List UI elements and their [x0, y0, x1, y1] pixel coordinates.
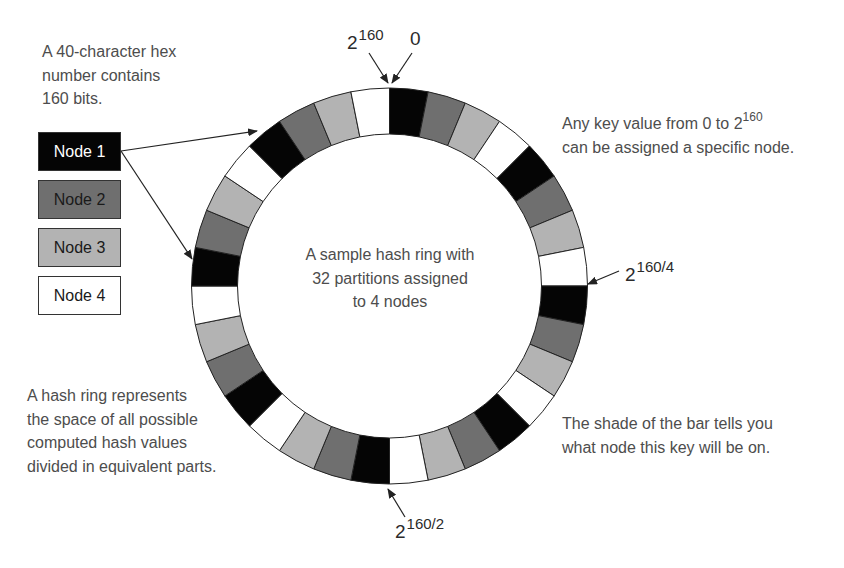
- zero-marker-arrow-icon: [392, 53, 412, 83]
- marker-exponent: 160: [359, 26, 384, 43]
- marker-base: 2: [347, 32, 358, 53]
- marker-base: 2: [625, 264, 636, 285]
- marker-exponent: 160/4: [637, 258, 675, 275]
- legend-arrow-icon: [121, 151, 192, 259]
- caption-line: 32 partitions assigned: [270, 267, 510, 291]
- caption-line: A sample hash ring with: [270, 243, 510, 267]
- caption-line: to 4 nodes: [270, 290, 510, 314]
- max-marker-arrow-icon: [369, 53, 388, 83]
- marker-base: 2: [395, 521, 406, 542]
- marker-base: 0: [410, 28, 421, 49]
- marker-label-half: 2160/2: [395, 522, 444, 541]
- ring-caption: A sample hash ring with 32 partitions as…: [270, 243, 510, 314]
- marker-label-max: 2160: [347, 33, 384, 52]
- half-marker-arrow-icon: [388, 489, 405, 517]
- legend-arrow-icon: [121, 131, 257, 151]
- marker-label-quarter: 2160/4: [625, 265, 674, 284]
- quarter-marker-arrow-icon: [588, 271, 619, 284]
- marker-exponent: 160/2: [407, 515, 445, 532]
- marker-label-zero: 0: [410, 29, 421, 48]
